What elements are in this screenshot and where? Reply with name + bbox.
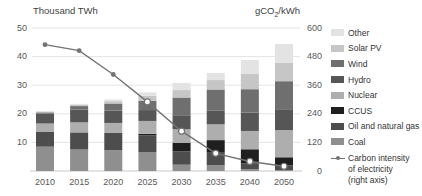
bar-segment-wind (173, 97, 191, 115)
legend-swatch (331, 29, 344, 36)
left-axis-tick-label: 10 (0, 137, 27, 147)
bar-segment-ccus (138, 134, 156, 135)
bar-segment-hydro (207, 110, 225, 124)
bar-segment-wind (70, 106, 88, 109)
carbon-intensity-marker (111, 72, 116, 77)
bar-segment-hydro (36, 114, 54, 124)
bar-segment-other (70, 104, 88, 105)
right-axis-tick-label: 240 (296, 108, 322, 118)
x-axis-category-label: 2015 (61, 177, 97, 187)
bar-segment-hydro (275, 109, 293, 130)
bar-segment-nuclear (241, 131, 259, 149)
bar-segment-hydro (241, 113, 259, 131)
right-axis-tick-label: 480 (296, 51, 322, 61)
bar-segment-solar-pv (241, 74, 259, 89)
x-axis-category-label: 2020 (95, 177, 131, 187)
legend-label-line: (right axis) (348, 175, 422, 186)
bar-segment-nuclear (138, 121, 156, 134)
bar-segment-wind (275, 81, 293, 109)
bar-segment-wind (36, 112, 54, 113)
bar-segment-coal (104, 150, 122, 171)
x-axis-category-label: 2040 (232, 177, 268, 187)
left-axis-tick-label: 30 (0, 80, 27, 90)
bar-segment-solar-pv (275, 63, 293, 82)
bar-segment-hydro (173, 115, 191, 129)
bar-segment-coal (173, 165, 191, 171)
bar-segment-nuclear (36, 124, 54, 132)
bar-segment-coal (275, 170, 293, 171)
bar-segment-nuclear (70, 122, 88, 132)
bar-segment-oil-and-natural-gas (36, 132, 54, 147)
legend-item-other: Other (331, 25, 422, 41)
bar-segment-coal (241, 169, 259, 171)
bar-segment-solar-pv (104, 101, 122, 103)
bar-segment-coal (207, 165, 225, 171)
bar-segment-other (207, 73, 225, 80)
carbon-intensity-marker (77, 48, 82, 53)
legend-label: Other (348, 28, 369, 38)
legend-item-nuclear: Nuclear (331, 87, 422, 103)
left-axis-tick-label: 40 (0, 51, 27, 61)
legend-label: CCUS (348, 106, 372, 116)
left-axis-tick-label: 50 (0, 23, 27, 33)
left-axis-tick-label: 20 (0, 108, 27, 118)
legend-line-marker-swatch (331, 155, 345, 162)
legend-item-wind: Wind (331, 56, 422, 72)
bar-segment-wind (241, 89, 259, 112)
chart-legend: OtherSolar PVWindHydroNuclearCCUSOil and… (331, 25, 422, 186)
legend-label-line: of electricity (348, 164, 422, 175)
bar-segment-wind (104, 104, 122, 111)
carbon-intensity-marker (179, 128, 185, 134)
bar-segment-solar-pv (70, 105, 88, 106)
legend-swatch (331, 138, 344, 145)
right-axis-tick-label: 120 (296, 137, 322, 147)
bar-segment-ccus (173, 143, 191, 152)
x-axis-category-label: 2030 (164, 177, 200, 187)
legend-swatch (331, 107, 344, 114)
bar-segment-other (241, 60, 259, 74)
right-axis-tick-label: 0 (296, 166, 322, 176)
bar-segment-oil-and-natural-gas (70, 132, 88, 149)
legend-label-line: Carbon intensity (348, 153, 409, 164)
bar-segment-other (138, 92, 156, 95)
legend-item-coal: Coal (331, 134, 422, 150)
legend-item-solar-pv: Solar PV (331, 41, 422, 57)
legend-item-ccus: CCUS (331, 103, 422, 119)
legend-item-hydro: Hydro (331, 72, 422, 88)
bar-segment-other (275, 44, 293, 63)
legend-swatch (331, 60, 344, 67)
legend-item-carbon-intensity: Carbon intensityof electricity(right axi… (331, 153, 422, 186)
legend-label: Nuclear (348, 90, 377, 100)
right-axis-tick-label: 600 (296, 23, 322, 33)
carbon-intensity-marker (247, 158, 253, 164)
x-axis-category-label: 2050 (266, 177, 302, 187)
bar-segment-oil-and-natural-gas (173, 151, 191, 164)
bar-segment-wind (207, 89, 225, 110)
legend-item-oil-and-natural-gas: Oil and natural gas (331, 119, 422, 135)
carbon-intensity-marker (281, 163, 287, 169)
right-axis-tick-label: 360 (296, 80, 322, 90)
legend-swatch (331, 92, 344, 99)
bar-segment-other (36, 111, 54, 112)
legend-label: Coal (348, 137, 365, 147)
x-axis-category-label: 2035 (198, 177, 234, 187)
legend-label: Solar PV (348, 43, 382, 53)
chart-container: Thousand TWh gCO2/kWh 102030405001202403… (0, 0, 422, 196)
legend-swatch (331, 45, 344, 52)
legend-swatch (331, 123, 344, 130)
carbon-intensity-marker (43, 42, 48, 47)
carbon-intensity-marker (213, 150, 219, 156)
x-axis-category-label: 2025 (129, 177, 165, 187)
legend-label: Oil and natural gas (348, 121, 419, 131)
carbon-intensity-marker (144, 99, 150, 105)
bar-segment-oil-and-natural-gas (104, 133, 122, 150)
legend-label: Hydro (348, 75, 371, 85)
bar-segment-coal (36, 147, 54, 171)
bar-segment-oil-and-natural-gas (138, 135, 156, 152)
bar-segment-nuclear (275, 130, 293, 157)
bar-segment-hydro (104, 111, 122, 123)
bar-segment-solar-pv (173, 90, 191, 97)
bar-segment-hydro (138, 110, 156, 121)
bar-segment-nuclear (104, 123, 122, 133)
bar-segment-coal (70, 150, 88, 171)
